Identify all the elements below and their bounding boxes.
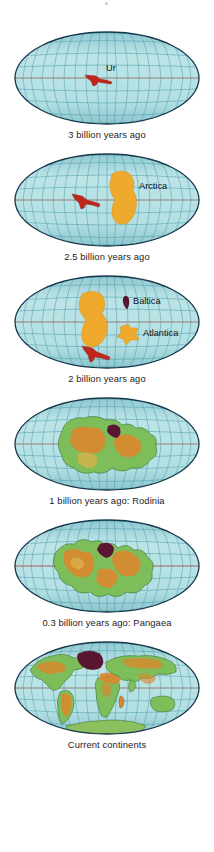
landmass-label-arctica: Arctica [139, 181, 168, 191]
landmass-label-atlantica: Atlantica [143, 328, 179, 338]
landmass-australia [150, 696, 175, 712]
caption-panel-rodinia: 1 billion years ago: Rodinia [49, 495, 164, 506]
panel-pangaea: 0.3 billion years ago: Pangaea [0, 518, 214, 628]
landmass-arctica-craton [110, 171, 137, 224]
globe-arctica: Arctica [12, 152, 202, 248]
landmass-label-ur: Ur [106, 63, 116, 73]
globe-pangaea [12, 518, 202, 614]
caption-panel-baltica-atlantica: 2 billion years ago [68, 373, 145, 384]
globe-current [12, 640, 202, 736]
globe-rodinia [12, 396, 202, 492]
globe-baltica-atlantica: Baltica Atlantica [12, 274, 202, 370]
panel-baltica-atlantica: Baltica Atlantica 2 billion years ago [0, 274, 214, 384]
continental-drift-figure: Ur 3 billion years ago [0, 0, 214, 852]
caption-panel-pangaea: 0.3 billion years ago: Pangaea [42, 617, 171, 628]
page-speck [105, 2, 108, 5]
caption-panel-arctica: 2.5 billion years ago [64, 251, 150, 262]
globe-ur: Ur [12, 30, 202, 126]
panel-current: Current continents [0, 640, 214, 750]
panel-rodinia: 1 billion years ago: Rodinia [0, 396, 214, 506]
panel-ur: Ur 3 billion years ago [0, 30, 214, 140]
landmass-label-baltica: Baltica [133, 296, 161, 306]
caption-panel-ur: 3 billion years ago [68, 129, 145, 140]
caption-panel-current: Current continents [68, 739, 146, 750]
panel-arctica: Arctica 2.5 billion years ago [0, 152, 214, 262]
